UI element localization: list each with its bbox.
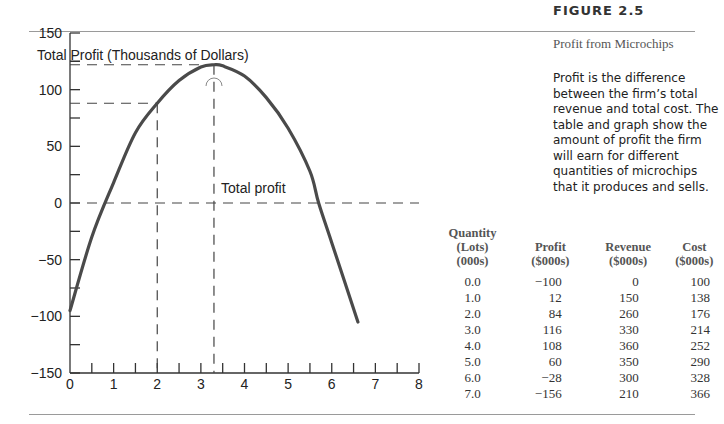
table-row: 7.0−156210366: [436, 386, 724, 402]
profit-cell: −100: [509, 274, 592, 290]
quantity-cell: 1.0: [436, 290, 509, 306]
revenue-cell: 150: [592, 290, 665, 306]
profit-cell: −28: [509, 370, 592, 386]
cost-cell: 328: [665, 370, 724, 386]
cost-cell: 366: [665, 386, 724, 402]
revenue-cell: 0: [592, 274, 665, 290]
profit-cell: 116: [509, 322, 592, 338]
y-tick-label: 100: [39, 82, 63, 98]
table-header-row: Quantity (Lots) (000s) Profit ($000s) Re…: [436, 226, 724, 274]
table-row: 3.0116330214: [436, 322, 724, 338]
reference-lines: [70, 65, 419, 373]
x-tick-label: 8: [415, 376, 423, 392]
profit-table: Quantity (Lots) (000s) Profit ($000s) Re…: [436, 226, 724, 402]
total-profit-annotation: Total profit: [221, 180, 286, 196]
profit-cell: 84: [509, 306, 592, 322]
col-profit: Profit ($000s): [509, 226, 592, 274]
profit-cell: 108: [509, 338, 592, 354]
x-tick-label: 1: [110, 376, 118, 392]
revenue-cell: 360: [592, 338, 665, 354]
profit-cell: 12: [509, 290, 592, 306]
quantity-cell: 7.0: [436, 386, 509, 402]
cost-cell: 176: [665, 306, 724, 322]
x-tick-label: 6: [328, 376, 336, 392]
y-tick-label: −100: [30, 308, 62, 324]
tick-labels: 150100500−50−100−150012345678: [30, 25, 423, 392]
quantity-cell: 0.0: [436, 274, 509, 290]
revenue-cell: 260: [592, 306, 665, 322]
x-tick-label: 4: [241, 376, 249, 392]
table-row: 1.012150138: [436, 290, 724, 306]
quantity-cell: 4.0: [436, 338, 509, 354]
y-tick-label: 150: [39, 25, 63, 41]
quantity-cell: 2.0: [436, 306, 509, 322]
revenue-cell: 330: [592, 322, 665, 338]
table-row: 6.0−28300328: [436, 370, 724, 386]
y-tick-label: 0: [54, 195, 62, 211]
x-tick-label: 3: [197, 376, 205, 392]
cost-cell: 290: [665, 354, 724, 370]
cost-cell: 100: [665, 274, 724, 290]
col-quantity: Quantity (Lots) (000s): [436, 226, 509, 274]
x-tick-label: 0: [66, 376, 74, 392]
col-revenue: Revenue ($000s): [592, 226, 665, 274]
y-tick-label: 50: [46, 138, 62, 154]
revenue-cell: 350: [592, 354, 665, 370]
quantity-cell: 5.0: [436, 354, 509, 370]
quantity-cell: 6.0: [436, 370, 509, 386]
table-row: 5.060350290: [436, 354, 724, 370]
profit-cell: −156: [509, 386, 592, 402]
x-tick-label: 5: [284, 376, 292, 392]
x-tick-label: 2: [153, 376, 161, 392]
profit-cell: 60: [509, 354, 592, 370]
col-cost: Cost ($000s): [665, 226, 724, 274]
cost-cell: 252: [665, 338, 724, 354]
x-tick-label: 7: [371, 376, 379, 392]
table-row: 4.0108360252: [436, 338, 724, 354]
cost-cell: 214: [665, 322, 724, 338]
revenue-cell: 300: [592, 370, 665, 386]
table-row: 0.0−1000100: [436, 274, 724, 290]
cost-cell: 138: [665, 290, 724, 306]
quantity-cell: 3.0: [436, 322, 509, 338]
revenue-cell: 210: [592, 386, 665, 402]
y-tick-label: −50: [38, 252, 62, 268]
y-tick-label: −150: [30, 365, 62, 381]
table-row: 2.084260176: [436, 306, 724, 322]
